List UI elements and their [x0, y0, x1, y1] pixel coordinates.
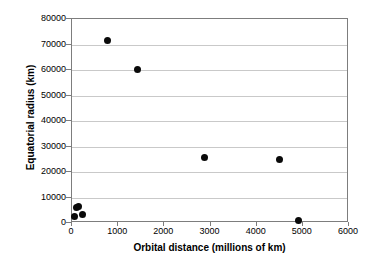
data-point: [201, 154, 208, 161]
y-tick-mark: [66, 69, 71, 70]
data-point: [79, 211, 86, 218]
x-tick-label: 0: [51, 226, 91, 236]
x-tick-mark: [163, 222, 164, 226]
data-point: [134, 66, 141, 73]
x-tick-mark: [348, 222, 349, 226]
x-tick-label: 2000: [143, 226, 183, 236]
x-tick-label: 5000: [282, 226, 322, 236]
x-tick-label: 1000: [97, 226, 137, 236]
data-point: [75, 203, 82, 210]
x-tick-mark: [302, 222, 303, 226]
x-tick-mark: [71, 222, 72, 226]
y-tick-label: 60000: [41, 64, 66, 74]
y-tick-mark: [66, 44, 71, 45]
data-point: [71, 213, 78, 220]
x-axis-title: Orbital distance (millions of km): [71, 242, 348, 253]
y-tick-label: 20000: [41, 166, 66, 176]
y-tick-label: 30000: [41, 141, 66, 151]
y-tick-label: 50000: [41, 90, 66, 100]
y-tick-label: 70000: [41, 39, 66, 49]
plot-area: [71, 18, 348, 222]
x-tick-mark: [117, 222, 118, 226]
x-tick-label: 3000: [190, 226, 230, 236]
y-tick-mark: [66, 18, 71, 19]
y-tick-label: 10000: [41, 192, 66, 202]
scatter-chart: 0100002000030000400005000060000700008000…: [0, 0, 378, 271]
x-tick-mark: [256, 222, 257, 226]
gridline: [72, 147, 347, 148]
data-point: [104, 37, 111, 44]
x-tick-label: 4000: [236, 226, 276, 236]
y-tick-mark: [66, 197, 71, 198]
y-tick-mark: [66, 95, 71, 96]
x-tick-mark: [210, 222, 211, 226]
x-tick-label: 6000: [328, 226, 368, 236]
y-tick-mark: [66, 120, 71, 121]
gridline: [72, 70, 347, 71]
gridline: [72, 45, 347, 46]
y-tick-label: 40000: [41, 115, 66, 125]
y-tick-mark: [66, 146, 71, 147]
y-tick-label: 80000: [41, 13, 66, 23]
y-tick-mark: [66, 171, 71, 172]
data-point: [295, 217, 302, 224]
gridline: [72, 96, 347, 97]
data-point: [276, 156, 283, 163]
y-axis-title: Equatorial radius (km): [25, 23, 36, 213]
gridline: [72, 121, 347, 122]
gridline: [72, 198, 347, 199]
gridline: [72, 172, 347, 173]
